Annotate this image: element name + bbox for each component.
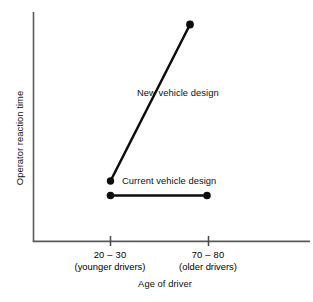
x-tick-label-group-older: 70 – 80 (older drivers) xyxy=(148,249,268,272)
data-point-new-young xyxy=(107,177,114,184)
x-tick-label-sub-older: (older drivers) xyxy=(148,261,268,272)
y-axis-title: Operator reaction time xyxy=(14,48,28,228)
data-point-new-old xyxy=(186,21,194,29)
data-point-current-old xyxy=(203,192,211,200)
series-label-current-vehicle-design: Current vehicle design xyxy=(122,175,216,186)
series-label-new-vehicle-design: New vehicle design xyxy=(137,87,219,98)
x-tick-label-range-older: 70 – 80 xyxy=(148,249,268,260)
x-axis-title: Age of driver xyxy=(115,278,215,289)
chart-figure: Operator reaction time 20 – 30 (younger … xyxy=(0,0,313,302)
series-line-new-vehicle-design xyxy=(111,25,191,182)
data-point-current-young xyxy=(107,192,115,200)
